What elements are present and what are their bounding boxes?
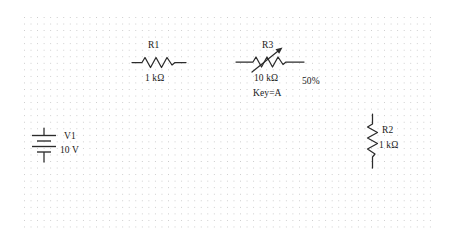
component-r1-refdes: R1	[148, 40, 159, 50]
component-r1-value: 1 kΩ	[145, 73, 164, 83]
component-r3-value: 10 kΩ	[254, 73, 278, 83]
resistor-symbol-icon	[130, 54, 188, 70]
potentiometer-symbol-icon	[234, 44, 306, 74]
component-r3-wiper-percent: 50%	[302, 76, 320, 86]
battery-symbol-icon	[26, 126, 62, 172]
component-v1-refdes: V1	[64, 131, 76, 141]
component-r3-key: Key=A	[253, 88, 282, 98]
component-v1-value: 10 V	[60, 145, 79, 155]
component-r2-value: 1 kΩ	[379, 140, 398, 150]
schematic-canvas: V1 10 V R1 1 kΩ R3 10 kΩ 50% Key=A	[0, 0, 454, 248]
component-r2-refdes: R2	[382, 125, 393, 135]
resistor-symbol-icon	[364, 112, 380, 170]
